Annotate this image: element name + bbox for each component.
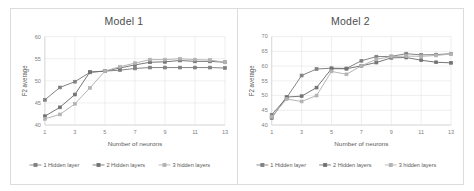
series-marker-3 [148, 58, 151, 61]
legend-label: 1 Hidden layer [43, 162, 79, 168]
series-marker-3 [118, 65, 121, 68]
series-marker-1 [163, 66, 166, 69]
x-tick-label: 13 [222, 129, 228, 135]
series-marker-2 [88, 71, 91, 74]
series-marker-3 [390, 55, 393, 58]
series-marker-2 [300, 95, 303, 98]
y-tick-label: 55 [262, 78, 268, 84]
chart-panel-model-2: Model 2 40455055606570135791113Number of… [237, 8, 464, 185]
x-tick-label: 5 [330, 129, 333, 135]
series-marker-3 [224, 61, 227, 64]
series-marker-1 [360, 59, 363, 62]
legend-item-2[interactable]: 2 Hidden layers [319, 162, 372, 168]
series-marker-1 [43, 98, 46, 101]
series-marker-3 [270, 115, 273, 118]
legend-item-1[interactable]: 1 Hidden layer [256, 162, 306, 168]
series-marker-1 [148, 66, 151, 69]
chart-svg-model-2: 40455055606570135791113Number of neurons… [238, 29, 463, 184]
series-marker-3 [435, 54, 438, 57]
x-tick-label: 7 [133, 129, 136, 135]
x-tick-label: 9 [163, 129, 166, 135]
legend-item-2[interactable]: 2 Hidden layers [93, 162, 146, 168]
y-tick-label: 55 [35, 56, 41, 62]
chart-title-model-1: Model 1 [11, 9, 237, 27]
y-tick-label: 40 [35, 122, 41, 128]
legend-label: 2 Hidden layers [333, 162, 372, 168]
y-tick-label: 50 [262, 93, 268, 99]
x-tick-label: 3 [300, 129, 303, 135]
legend-item-3[interactable]: 3 hidden layers [158, 162, 210, 168]
series-marker-3 [360, 64, 363, 67]
series-marker-3 [285, 98, 288, 101]
x-tick-label: 11 [192, 129, 198, 135]
series-marker-2 [58, 106, 61, 109]
x-axis-title: Number of neurons [108, 140, 162, 147]
series-marker-1 [224, 67, 227, 70]
figure-container: Model 1 4045505560135791113Number of neu… [0, 0, 474, 191]
x-tick-label: 1 [43, 129, 46, 135]
series-marker-2 [420, 59, 423, 62]
series-marker-3 [103, 70, 106, 73]
series-marker-1 [58, 86, 61, 89]
series-marker-3 [450, 53, 453, 56]
legend-marker-swatch [389, 164, 392, 167]
series-marker-3 [375, 58, 378, 61]
series-marker-2 [375, 61, 378, 64]
y-tick-label: 60 [262, 63, 268, 69]
series-marker-3 [58, 113, 61, 116]
series-marker-3 [330, 70, 333, 73]
x-axis-title: Number of neurons [334, 140, 388, 147]
series-marker-3 [179, 57, 182, 60]
series-marker-3 [163, 58, 166, 61]
series-marker-3 [88, 86, 91, 89]
series-marker-2 [345, 67, 348, 70]
series-marker-1 [315, 68, 318, 71]
y-tick-label: 60 [35, 34, 41, 40]
legend-label: 1 Hidden layer [270, 162, 306, 168]
series-marker-2 [315, 86, 318, 89]
x-tick-label: 7 [360, 129, 363, 135]
x-tick-label: 1 [270, 129, 273, 135]
x-tick-label: 3 [73, 129, 76, 135]
chart-panel-model-1: Model 1 4045505560135791113Number of neu… [10, 8, 237, 185]
legend-marker-swatch [324, 164, 327, 167]
legend-marker-swatch [261, 164, 264, 167]
legend-marker-swatch [163, 164, 166, 167]
x-tick-label: 11 [418, 129, 424, 135]
series-marker-3 [315, 94, 318, 97]
legend-label: 2 Hidden layers [106, 162, 145, 168]
series-marker-1 [194, 66, 197, 69]
series-marker-3 [405, 55, 408, 58]
series-marker-1 [73, 80, 76, 83]
chart-title-model-2: Model 2 [238, 9, 463, 27]
series-marker-1 [209, 66, 212, 69]
chart-svg-model-1: 4045505560135791113Number of neuronsF2 a… [11, 29, 237, 184]
series-marker-1 [300, 74, 303, 77]
y-tick-label: 40 [262, 122, 268, 128]
series-marker-3 [209, 59, 212, 62]
y-tick-label: 50 [35, 78, 41, 84]
legend-label: 3 hidden layers [399, 162, 437, 168]
series-marker-2 [435, 61, 438, 64]
series-marker-2 [450, 61, 453, 64]
series-marker-3 [73, 102, 76, 105]
series-marker-3 [345, 73, 348, 76]
y-axis-title: F2 average [248, 65, 255, 96]
series-marker-3 [43, 117, 46, 120]
x-tick-label: 5 [103, 129, 106, 135]
y-axis-title: F2 average [21, 65, 28, 96]
x-tick-label: 9 [390, 129, 393, 135]
y-tick-label: 45 [35, 100, 41, 106]
legend-marker-swatch [34, 164, 37, 167]
legend-item-1[interactable]: 1 Hidden layer [30, 162, 80, 168]
series-marker-3 [300, 100, 303, 103]
series-marker-1 [179, 66, 182, 69]
x-tick-label: 13 [448, 129, 454, 135]
series-marker-2 [73, 93, 76, 96]
legend-item-3[interactable]: 3 hidden layers [385, 162, 437, 168]
legend-label: 3 hidden layers [172, 162, 210, 168]
y-tick-label: 70 [262, 34, 268, 40]
plot-area-model-2: 40455055606570135791113Number of neurons… [238, 29, 463, 184]
series-marker-3 [133, 62, 136, 65]
y-tick-label: 65 [262, 48, 268, 54]
